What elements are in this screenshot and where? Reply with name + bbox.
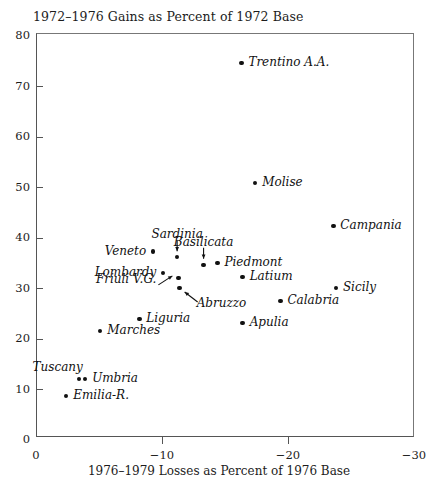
data-point — [176, 276, 180, 280]
x-tick-mark — [162, 437, 163, 444]
chart-title: 1972–1976 Gains as Percent of 1972 Base — [33, 9, 304, 24]
data-point — [240, 275, 244, 279]
y-tick-label: 30 — [2, 281, 30, 295]
data-point — [278, 299, 282, 303]
point-label: Piedmont — [224, 255, 282, 269]
x-tick-mark — [288, 437, 289, 444]
data-point — [240, 321, 244, 325]
data-point — [201, 263, 205, 267]
point-label: Latium — [250, 269, 293, 283]
scatter-plot-figure: 1972–1976 Gains as Percent of 1972 Base … — [0, 0, 438, 483]
y-tick-label: 80 — [2, 28, 30, 42]
point-label: Friuli V.G. — [96, 272, 156, 286]
y-tick-label: 0 — [2, 432, 30, 446]
point-label: Campania — [340, 218, 401, 232]
point-label: Emilia-R. — [73, 388, 129, 402]
point-label: Veneto — [105, 244, 147, 258]
y-tick-label: 20 — [2, 331, 30, 345]
y-tick-label: 40 — [2, 230, 30, 244]
y-tick-label: 70 — [2, 79, 30, 93]
point-label: Molise — [262, 175, 302, 189]
data-point — [239, 61, 243, 65]
point-label: Sicily — [343, 280, 376, 294]
point-label: Tuscany — [33, 360, 83, 374]
point-label: Abruzzo — [197, 296, 247, 310]
point-label: Calabria — [287, 293, 339, 307]
x-tick-label: 0 — [16, 448, 56, 462]
point-label: Apulia — [250, 315, 289, 329]
data-point — [177, 286, 181, 290]
data-point — [137, 317, 141, 321]
data-point — [77, 377, 81, 381]
y-tick-label: 60 — [2, 129, 30, 143]
x-axis-label: 1976–1979 Losses as Percent of 1976 Base — [0, 464, 438, 478]
point-label: Basilicata — [174, 235, 234, 249]
x-tick-label: −10 — [142, 448, 182, 462]
y-tick-label: 50 — [2, 180, 30, 194]
y-tick-label: 10 — [2, 382, 30, 396]
data-point — [331, 224, 335, 228]
data-point — [215, 261, 219, 265]
x-tick-label: −20 — [268, 448, 308, 462]
x-tick-label: −30 — [394, 448, 434, 462]
point-label: Umbria — [92, 371, 138, 385]
point-label: Marches — [107, 323, 160, 337]
point-label: Trentino A.A. — [248, 55, 329, 69]
